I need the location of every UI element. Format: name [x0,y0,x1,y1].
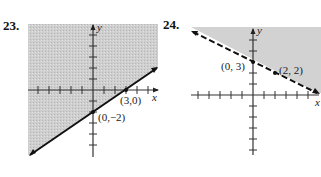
point-label-2-2: (2, 2) [279,64,303,77]
x-axis-label-23: x [151,91,157,103]
line-arrow-icon-24a [191,31,198,36]
graphs-canvas: y x (3,0) (0,−2) [0,0,321,177]
y-axis-label-24: y [256,24,262,36]
point-3-0 [124,88,128,92]
graph-23: y x (3,0) (0,−2) [28,21,159,157]
shaded-region-24 [191,27,321,93]
point-0-3 [251,60,255,64]
point-0-neg2 [91,110,95,114]
point-label-0-3: (0, 3) [221,60,245,73]
graph-24: y x (0, 3) (2, 2) [191,24,321,155]
point-label-0-neg2: (0,−2) [98,111,126,124]
point-label-3-0: (3,0) [120,94,141,107]
x-axis-label-24: x [314,96,320,108]
point-2-2 [273,71,277,75]
y-axis-label-23: y [96,21,102,33]
